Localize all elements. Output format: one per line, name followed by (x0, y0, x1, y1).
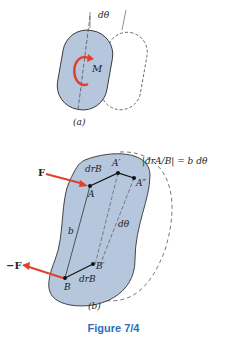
point-a-prime: A′ (111, 158, 121, 168)
panel-b-label: (b) (88, 301, 101, 311)
equation-label: |drA/B| = b dθ (142, 156, 208, 167)
point-b-prime: B′ (95, 261, 105, 271)
point-a: A (87, 189, 95, 199)
panel-b: F −F drB A′ A″ A |drA/B| = b dθ b dθ B′ … (6, 152, 208, 311)
length-b-label: b (68, 226, 74, 236)
neg-force-label: −F (6, 260, 21, 271)
dr-b-bottom-label: drB (79, 274, 96, 284)
figure-caption: Figure 7/4 (0, 322, 227, 334)
panel-a: dθ M (a) (53, 10, 150, 127)
rigid-body-a (53, 26, 116, 113)
force-label: F (38, 167, 45, 178)
panel-a-label: (a) (73, 117, 86, 127)
moment-label: M (91, 63, 103, 74)
point-a-dprime: A″ (135, 178, 146, 188)
dr-b-top-label: drB (85, 164, 102, 174)
angle-label-b: dθ (118, 219, 130, 229)
figure-canvas: dθ M (a) F −F drB A′ A″ A |drA/B| = b dθ… (0, 0, 227, 350)
angle-label-a: dθ (98, 10, 110, 20)
point-b: B (63, 282, 71, 292)
